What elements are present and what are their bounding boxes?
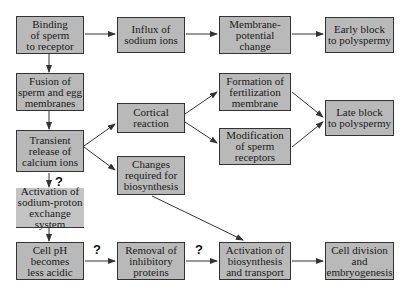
question-mark-calcium-sodium: ? — [55, 174, 63, 189]
arrow-cortical-modification — [185, 122, 217, 143]
node-modification-label: Modification of sperm receptors — [226, 130, 283, 163]
node-cell-ph-label: Cell pH becomes less acidic — [27, 245, 73, 278]
arrow-modification-late — [292, 122, 323, 147]
arrow-changes-activationbio — [152, 196, 243, 240]
node-transient: Transient release of calcium ions — [16, 130, 84, 172]
node-cell-division-label: Cell division and embryogenesis — [327, 245, 393, 278]
node-cortical-label: Cortical reaction — [133, 107, 168, 129]
node-membrane-potential-label: Membrane- potential change — [229, 19, 280, 52]
arrow-formation-late — [292, 92, 323, 117]
node-changes: Changes required for biosynthesis — [117, 156, 185, 195]
node-activation-sodium-proton: Activation of sodium-proton exchange sys… — [16, 188, 84, 228]
node-changes-label: Changes required for biosynthesis — [124, 159, 178, 192]
node-activation-biosynthesis-label: Activation of biosynthesis and transport — [226, 245, 284, 278]
node-cell-ph: Cell pH becomes less acidic — [16, 242, 84, 280]
node-fusion-label: Fusion of sperm and egg membranes — [18, 76, 82, 109]
node-early-block: Early block to polyspermy — [325, 17, 394, 53]
node-influx: Influx of sodium ions — [117, 17, 185, 53]
node-cell-division: Cell division and embryogenesis — [325, 242, 394, 280]
arrow-transient-changes — [84, 147, 115, 170]
node-cortical: Cortical reaction — [117, 103, 185, 133]
node-late-block-label: Late block to polyspermy — [328, 107, 391, 129]
node-removal: Removal of inhibitory proteins — [117, 242, 185, 280]
node-transient-label: Transient release of calcium ions — [22, 135, 78, 168]
arrow-transient-cortical — [84, 124, 115, 146]
node-binding-label: Binding of sperm to receptor — [26, 19, 73, 52]
question-mark-removal-activation: ? — [195, 242, 203, 257]
node-formation: Formation of fertilization membrane — [219, 73, 291, 111]
node-modification: Modification of sperm receptors — [219, 128, 291, 165]
arrow-cortical-formation — [185, 92, 217, 114]
node-formation-label: Formation of fertilization membrane — [226, 76, 284, 109]
node-removal-label: Removal of inhibitory proteins — [125, 245, 177, 278]
node-influx-label: Influx of sodium ions — [124, 24, 177, 46]
node-activation-sodium-proton-label: Activation of sodium-proton exchange sys… — [16, 186, 84, 230]
node-activation-biosynthesis: Activation of biosynthesis and transport — [219, 242, 291, 280]
node-fusion: Fusion of sperm and egg membranes — [16, 73, 84, 111]
node-early-block-label: Early block to polyspermy — [328, 24, 391, 46]
question-mark-ph-removal: ? — [93, 242, 101, 257]
node-membrane-potential: Membrane- potential change — [219, 16, 291, 54]
node-binding: Binding of sperm to receptor — [16, 16, 84, 54]
node-late-block: Late block to polyspermy — [325, 100, 394, 136]
